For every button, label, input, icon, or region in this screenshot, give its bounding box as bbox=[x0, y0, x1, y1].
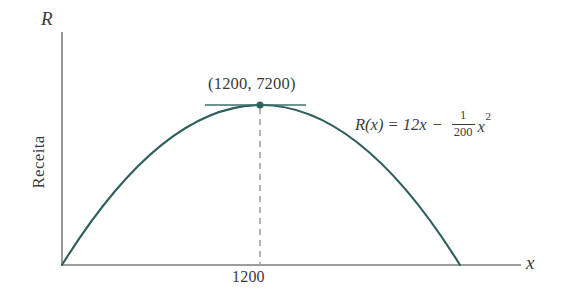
fraction-numerator: 1 bbox=[458, 109, 468, 124]
chart-canvas bbox=[0, 0, 561, 302]
x-tick-label-1200: 1200 bbox=[232, 268, 265, 286]
second-term-exponent: 2 bbox=[485, 110, 491, 122]
equation-fraction: 1 200 bbox=[452, 109, 475, 139]
fraction-denominator: 200 bbox=[452, 125, 475, 140]
equation-first-term: 12x bbox=[403, 117, 427, 134]
y-axis-letter-label: R bbox=[41, 8, 53, 30]
equation-lhs: R(x) bbox=[355, 117, 383, 134]
y-axis-title: Receita bbox=[29, 116, 49, 208]
x-axis-letter-label: x bbox=[526, 252, 534, 274]
vertex-coordinate-label: (1200, 7200) bbox=[208, 74, 296, 94]
function-equation: R(x) = 12x − 1 200 x2 bbox=[355, 110, 490, 140]
revenue-parabola-figure: R x Receita 1200 (1200, 7200) R(x) = 12x… bbox=[0, 0, 561, 302]
second-term-base: x bbox=[478, 116, 485, 135]
vertex-point bbox=[256, 101, 263, 108]
equation-second-term: x2 bbox=[478, 116, 491, 135]
equation-equals-sign: = bbox=[388, 117, 397, 134]
equation-minus-sign: − bbox=[433, 117, 442, 134]
